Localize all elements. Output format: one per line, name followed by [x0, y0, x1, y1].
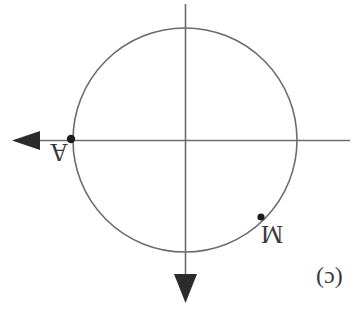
- down-arrowhead-icon: [174, 274, 197, 303]
- point-a-label: A: [50, 140, 68, 165]
- point-m-marker: [257, 213, 264, 220]
- point-m-label: M: [261, 222, 283, 247]
- left-arrowhead-icon: [12, 131, 40, 150]
- geometry-figure: A M (c): [0, 0, 357, 314]
- subfigure-label: (c): [316, 268, 343, 292]
